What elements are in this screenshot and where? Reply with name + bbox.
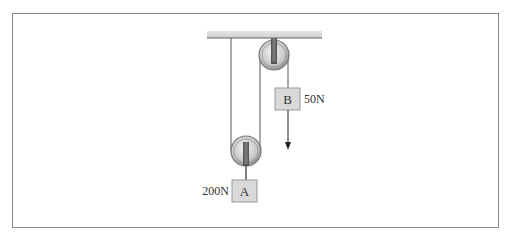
block-b-weight: 50N [304, 92, 325, 106]
block-a: A 200N [202, 180, 257, 202]
block-b-label: B [283, 92, 292, 107]
ceiling [207, 31, 322, 38]
block-a-weight: 200N [202, 184, 229, 198]
block-b: B 50N [275, 88, 325, 110]
movable-pulley [231, 136, 261, 180]
fixed-pulley [259, 38, 289, 70]
force-arrow [285, 110, 291, 150]
pulley-diagram: B 50N A 200N [0, 0, 511, 240]
block-a-label: A [240, 184, 250, 199]
